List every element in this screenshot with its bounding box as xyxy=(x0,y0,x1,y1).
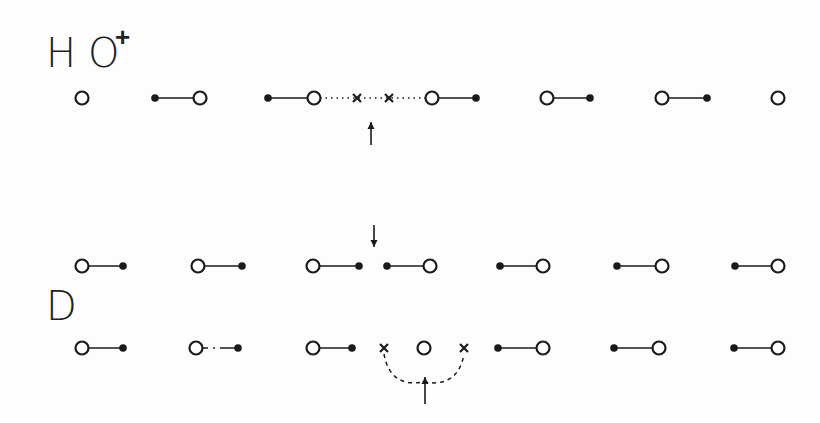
hydrogen-dot xyxy=(494,344,502,352)
hydrogen-dot xyxy=(151,94,159,102)
oxygen-open-circle xyxy=(537,342,550,355)
hydrogen-dot xyxy=(610,344,618,352)
oxygen-open-circle xyxy=(772,260,785,273)
oxygen-open-circle xyxy=(418,342,431,355)
vacancy-cross-icon xyxy=(460,344,468,352)
oxygen-open-circle xyxy=(772,342,785,355)
hydrogen-dot xyxy=(348,344,356,352)
dashed-jump-arc xyxy=(384,354,464,383)
oxygen-open-circle xyxy=(656,92,669,105)
hydrogen-dot xyxy=(238,262,246,270)
defect-diagram: H O + D xyxy=(0,0,820,423)
oxygen-open-circle xyxy=(76,342,89,355)
hydrogen-dot xyxy=(613,262,621,270)
oxygen-open-circle xyxy=(308,92,321,105)
oxygen-open-circle xyxy=(772,92,785,105)
oxygen-open-circle xyxy=(76,260,89,273)
molecule-chains xyxy=(0,0,820,423)
hydrogen-dot xyxy=(264,94,272,102)
arrow-head-icon xyxy=(371,240,378,247)
oxygen-open-circle xyxy=(537,260,550,273)
oxygen-open-circle xyxy=(194,92,207,105)
hydrogen-dot xyxy=(119,262,127,270)
oxygen-open-circle xyxy=(190,342,203,355)
hydrogen-dot xyxy=(119,344,127,352)
hydrogen-dot xyxy=(730,344,738,352)
hydrogen-dot xyxy=(703,94,711,102)
oxygen-open-circle xyxy=(424,260,437,273)
oxygen-open-circle xyxy=(76,92,89,105)
hydrogen-dot xyxy=(234,344,242,352)
arrow-head-icon xyxy=(368,122,375,129)
hydrogen-dot xyxy=(355,262,363,270)
oxygen-open-circle xyxy=(192,260,205,273)
oxygen-open-circle xyxy=(541,92,554,105)
oxygen-open-circle xyxy=(307,342,320,355)
hydrogen-dot xyxy=(586,94,594,102)
hydrogen-dot xyxy=(731,262,739,270)
hydrogen-dot xyxy=(383,262,391,270)
oxygen-open-circle xyxy=(307,260,320,273)
hydrogen-dot xyxy=(472,94,480,102)
vacancy-cross-icon xyxy=(380,344,388,352)
arrow-head-icon xyxy=(422,377,429,384)
oxygen-open-circle xyxy=(656,260,669,273)
hydrogen-dot xyxy=(496,262,504,270)
oxygen-open-circle xyxy=(426,92,439,105)
oxygen-open-circle xyxy=(653,342,666,355)
